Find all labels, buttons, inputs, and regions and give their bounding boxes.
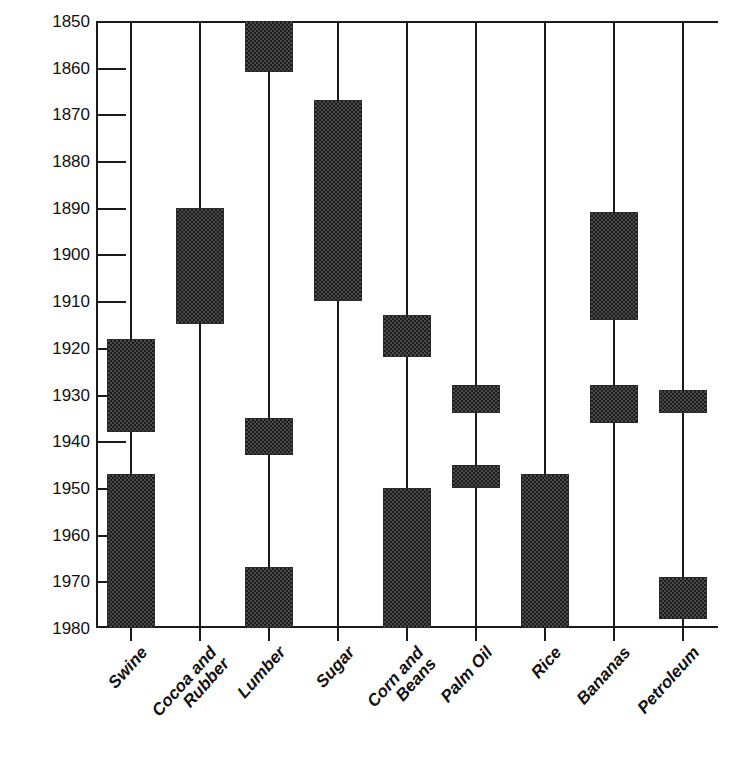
y-axis-tick-label: 1900	[26, 246, 90, 263]
bar-segment[interactable]	[383, 315, 431, 357]
x-axis-tick	[406, 628, 408, 641]
y-axis-tick-label: 1910	[26, 293, 90, 310]
category-stem-line	[475, 21, 477, 628]
y-axis-tick	[96, 208, 126, 210]
y-axis-tick-label: 1940	[26, 433, 90, 450]
y-axis-tick	[96, 114, 126, 116]
bar-segment[interactable]	[107, 339, 155, 432]
x-axis-tick	[544, 628, 546, 641]
y-axis-tick	[96, 301, 126, 303]
x-axis-tick	[475, 628, 477, 641]
y-axis-tick	[96, 161, 126, 163]
y-axis-tick-label: 1860	[26, 59, 90, 76]
y-axis-tick-label: 1890	[26, 199, 90, 216]
x-axis-category-label-line: Sugar	[313, 644, 358, 691]
x-axis-category-label-line: Petroleum	[635, 644, 704, 717]
x-axis-category-label-line: Rice	[528, 644, 565, 682]
bar-segment[interactable]	[245, 21, 293, 72]
y-axis-tick	[96, 254, 126, 256]
x-axis-tick	[682, 628, 684, 641]
y-axis-tick-label: 1960	[26, 526, 90, 543]
x-axis-tick	[613, 628, 615, 641]
category-stem-line	[613, 21, 615, 628]
y-axis-tick-label: 1930	[26, 386, 90, 403]
y-axis-tick-label: 1980	[26, 620, 90, 637]
bar-segment[interactable]	[383, 488, 431, 628]
bar-segment[interactable]	[452, 465, 500, 488]
chart-root: 1850186018701880189019001910192019301940…	[0, 0, 748, 771]
x-axis-tick	[199, 628, 201, 641]
y-axis-tick-label: 1850	[26, 13, 90, 30]
bar-segment[interactable]	[452, 385, 500, 413]
x-axis-category-label-line: Swine	[105, 644, 151, 692]
x-axis-tick	[337, 628, 339, 641]
bar-segment[interactable]	[314, 100, 362, 301]
y-axis-tick-label: 1880	[26, 153, 90, 170]
category-stem-line	[268, 21, 270, 628]
y-axis-tick	[96, 441, 126, 443]
y-axis-tick-label: 1950	[26, 479, 90, 496]
bar-segment[interactable]	[659, 390, 707, 413]
category-stem-line	[199, 21, 201, 628]
x-axis-tick	[268, 628, 270, 641]
y-axis-tick	[96, 68, 126, 70]
y-axis-tick-label: 1920	[26, 339, 90, 356]
y-axis-tick-label: 1970	[26, 573, 90, 590]
x-axis-category-label-line: Bananas	[574, 644, 634, 708]
y-axis-tick-label: 1870	[26, 106, 90, 123]
bar-segment[interactable]	[245, 418, 293, 455]
bar-segment[interactable]	[590, 385, 638, 422]
category-stem-line	[682, 21, 684, 628]
x-axis-tick	[130, 628, 132, 641]
bar-segment[interactable]	[176, 208, 224, 325]
bar-segment[interactable]	[107, 474, 155, 628]
bar-segment[interactable]	[590, 212, 638, 319]
